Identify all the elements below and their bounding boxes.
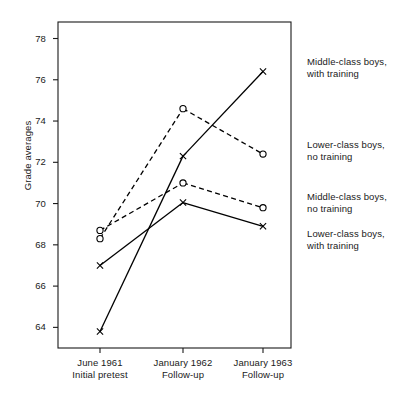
data-point-marker-circle: [97, 236, 103, 242]
series-line-segment: [183, 109, 263, 154]
y-tick-label-68: 68: [22, 239, 46, 250]
y-tick-label-74: 74: [22, 115, 46, 126]
x-tick-label-2: January 1963Follow-up: [218, 357, 308, 380]
series-label-0: Middle-class boys,with training: [307, 56, 387, 79]
series-label-line: Middle-class boys,: [307, 56, 387, 68]
series-label-line: with training: [307, 240, 385, 252]
series-line-segment: [100, 183, 183, 230]
y-tick-label-64: 64: [22, 321, 46, 332]
series-line-segment: [183, 72, 263, 157]
series-2: [97, 180, 266, 234]
y-tick-label-72: 72: [22, 156, 46, 167]
axes-frame: [58, 22, 291, 348]
chart-figure: Grade averages 6466687072747678 June 196…: [0, 0, 398, 396]
data-point-marker-circle: [180, 106, 186, 112]
x-tick-label-line: Follow-up: [138, 369, 228, 381]
x-tick-label-line: Initial pretest: [55, 369, 145, 381]
series-line-segment: [183, 203, 263, 227]
data-point-marker-circle: [260, 151, 266, 157]
series-label-2: Middle-class boys,no training: [307, 191, 387, 214]
series-label-line: no training: [307, 151, 385, 163]
data-point-marker-circle: [260, 205, 266, 211]
data-point-marker-circle: [97, 227, 103, 233]
x-tick-label-line: January 1963: [218, 357, 308, 369]
x-tick-label-line: June 1961: [55, 357, 145, 369]
series-label-line: no training: [307, 203, 387, 215]
y-tick-label-70: 70: [22, 198, 46, 209]
x-tick-label-0: June 1961Initial pretest: [55, 357, 145, 380]
x-tick-label-1: January 1962Follow-up: [138, 357, 228, 380]
series-label-1: Lower-class boys,no training: [307, 139, 385, 162]
series-1: [97, 106, 266, 242]
series-line-segment: [100, 109, 183, 239]
y-tick-label-78: 78: [22, 33, 46, 44]
series-label-line: Lower-class boys,: [307, 139, 385, 151]
series-label-line: Lower-class boys,: [307, 228, 385, 240]
series-label-3: Lower-class boys,with training: [307, 228, 385, 251]
series-line-segment: [183, 183, 263, 208]
series-line-segment: [100, 156, 183, 331]
x-tick-label-line: Follow-up: [218, 369, 308, 381]
series-3: [97, 199, 266, 268]
x-tick-label-line: January 1962: [138, 357, 228, 369]
series-line-segment: [100, 203, 183, 266]
data-point-marker-circle: [180, 180, 186, 186]
series-label-line: with training: [307, 68, 387, 80]
y-tick-label-76: 76: [22, 74, 46, 85]
y-tick-label-66: 66: [22, 280, 46, 291]
series-label-line: Middle-class boys,: [307, 191, 387, 203]
